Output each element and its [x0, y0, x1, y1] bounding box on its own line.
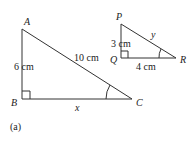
right-angle-marker-b	[22, 91, 30, 99]
vertex-label-b: B	[11, 97, 17, 108]
vertex-label-p: P	[115, 11, 122, 22]
vertex-label-q: Q	[110, 54, 118, 65]
side-label-qr: 4 cm	[136, 61, 156, 72]
angle-arc-c	[106, 85, 110, 99]
side-label-bc: x	[74, 102, 80, 113]
side-label-ac: 10 cm	[74, 52, 99, 63]
side-label-pq: 3 cm	[111, 38, 131, 49]
figure-caption: (a)	[10, 121, 21, 133]
vertex-label-c: C	[136, 97, 143, 108]
similar-triangles-figure: A B C 6 cm 10 cm x (a) P Q R 3 cm 4 cm y	[0, 0, 196, 141]
angle-arc-r	[159, 49, 161, 58]
side-label-ab: 6 cm	[14, 61, 34, 72]
side-label-pr: y	[150, 29, 156, 40]
vertex-label-r: R	[179, 54, 186, 65]
vertex-label-a: A	[23, 16, 31, 27]
right-angle-marker-q	[121, 51, 128, 58]
